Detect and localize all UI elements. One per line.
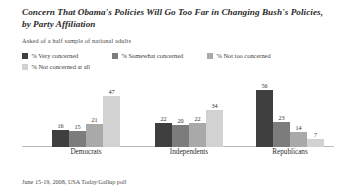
legend-swatch-icon bbox=[22, 53, 28, 59]
bar-rect[interactable] bbox=[86, 124, 103, 147]
bar-item[interactable]: 14 bbox=[290, 82, 307, 147]
legend-item-not-too-concerned: % Not too concerned bbox=[207, 50, 302, 61]
chart-source-note: June 15-19, 2008, USA Today/Gallup poll bbox=[22, 178, 126, 185]
bar-rect[interactable] bbox=[273, 122, 290, 147]
bar-value-label: 22 bbox=[160, 115, 166, 122]
bar-rect[interactable] bbox=[290, 132, 307, 147]
x-axis-label-independents: Independents bbox=[155, 148, 223, 156]
legend-row-1: % Very concerned % Somewhat concerned % … bbox=[22, 50, 334, 61]
legend-label: % Very concerned bbox=[32, 52, 79, 59]
x-axis-label-republicans: Republicans bbox=[256, 148, 324, 156]
bar-item[interactable]: 47 bbox=[103, 82, 120, 147]
legend-item-very-concerned: % Very concerned bbox=[22, 50, 112, 61]
bar-value-label: 23 bbox=[278, 114, 284, 121]
legend-item-somewhat-concerned: % Somewhat concerned bbox=[112, 50, 207, 61]
bar-group-bars: 56 23 14 7 bbox=[256, 82, 324, 147]
chart-figure: Concern That Obama's Policies Will Go To… bbox=[0, 0, 346, 192]
legend-label: % Somewhat concerned bbox=[122, 52, 184, 59]
bar-value-label: 14 bbox=[295, 124, 301, 131]
bar-item[interactable]: 34 bbox=[206, 82, 223, 147]
chart-title: Concern That Obama's Policies Will Go To… bbox=[22, 7, 334, 30]
legend-item-not-concerned-at-all: % Not concerned at all bbox=[22, 61, 112, 72]
chart-legend: % Very concerned % Somewhat concerned % … bbox=[22, 50, 334, 72]
bar-item[interactable]: 7 bbox=[307, 82, 324, 147]
bar-rect[interactable] bbox=[189, 123, 206, 147]
bar-value-label: 15 bbox=[74, 123, 80, 130]
bar-value-label: 22 bbox=[194, 115, 200, 122]
legend-row-2: % Not concerned at all bbox=[22, 61, 334, 72]
legend-swatch-icon bbox=[207, 53, 213, 59]
bar-value-label: 56 bbox=[261, 82, 267, 89]
bar-item[interactable]: 56 bbox=[256, 82, 273, 147]
bar-item[interactable]: 22 bbox=[189, 82, 206, 147]
bar-value-label: 7 bbox=[314, 131, 317, 138]
legend-label: % Not concerned at all bbox=[32, 63, 91, 70]
chart-plot-area: 16 15 21 47 Democrats bbox=[22, 82, 334, 162]
bar-group-independents: 22 20 22 34 Independents bbox=[155, 82, 223, 147]
bar-value-label: 34 bbox=[211, 102, 217, 109]
legend-swatch-icon bbox=[112, 53, 118, 59]
bar-value-label: 21 bbox=[91, 116, 97, 123]
bar-group-democrats: 16 15 21 47 Democrats bbox=[52, 82, 120, 147]
bar-item[interactable]: 22 bbox=[155, 82, 172, 147]
bar-rect[interactable] bbox=[307, 139, 324, 147]
bar-value-label: 16 bbox=[57, 122, 63, 129]
bar-rect[interactable] bbox=[52, 130, 69, 147]
bar-item[interactable]: 21 bbox=[86, 82, 103, 147]
bar-rect[interactable] bbox=[103, 96, 120, 147]
legend-swatch-icon bbox=[22, 64, 28, 70]
bar-value-label: 20 bbox=[177, 117, 183, 124]
bar-item[interactable]: 23 bbox=[273, 82, 290, 147]
bar-item[interactable]: 15 bbox=[69, 82, 86, 147]
bar-value-label: 47 bbox=[108, 88, 114, 95]
bar-rect[interactable] bbox=[256, 90, 273, 147]
bar-rect[interactable] bbox=[69, 131, 86, 147]
bar-rect[interactable] bbox=[172, 125, 189, 147]
bar-rect[interactable] bbox=[206, 110, 223, 147]
bar-group-republicans: 56 23 14 7 Republicans bbox=[256, 82, 324, 147]
bar-rect[interactable] bbox=[155, 123, 172, 147]
bar-item[interactable]: 16 bbox=[52, 82, 69, 147]
bar-group-bars: 22 20 22 34 bbox=[155, 82, 223, 147]
x-axis-label-democrats: Democrats bbox=[52, 148, 120, 156]
bar-item[interactable]: 20 bbox=[172, 82, 189, 147]
chart-subtitle: Asked of a half sample of national adult… bbox=[22, 37, 131, 44]
bar-group-bars: 16 15 21 47 bbox=[52, 82, 120, 147]
legend-label: % Not too concerned bbox=[217, 52, 271, 59]
